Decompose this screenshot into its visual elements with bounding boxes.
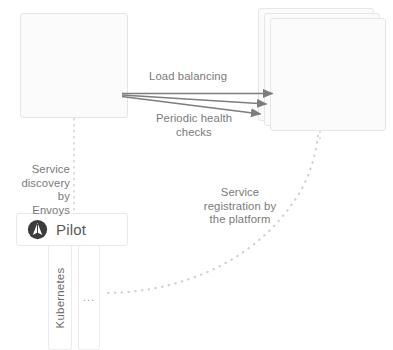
- node-pilot[interactable]: Pilot: [16, 213, 128, 246]
- annotation-service-registration: Service registration by the platform: [188, 186, 292, 227]
- periodic-health-checks-line-2: checks: [140, 126, 248, 140]
- service-registration-line-1: Service: [188, 186, 292, 200]
- pod-service-b-copy-1: [270, 18, 386, 131]
- service-discovery-line-1: Service: [8, 163, 70, 177]
- service-registration-line-3: the platform: [188, 213, 292, 227]
- annotation-periodic-health-checks: Periodic health checks: [140, 112, 248, 139]
- periodic-health-checks-line-1: Periodic health: [140, 112, 248, 126]
- service-discovery-line-3: Envoys: [8, 204, 70, 218]
- arrow-load-balancing-2: [122, 95, 267, 104]
- pilot-label: Pilot: [56, 221, 86, 238]
- service-registration-line-2: registration by: [188, 200, 292, 214]
- service-discovery-line-2: discovery by: [8, 177, 70, 204]
- annotation-service-discovery: Service discovery by Envoys: [8, 163, 70, 217]
- pod-service-a: [20, 13, 128, 118]
- annotation-load-balancing: Load balancing: [149, 70, 227, 84]
- pilot-icon: [27, 219, 48, 240]
- load-balancing-text: Load balancing: [149, 70, 227, 84]
- platform-bar-kubernetes: [48, 245, 72, 350]
- platform-bar-other: [78, 245, 100, 350]
- diagram-canvas: Service A Proxy Service B Proxy Load bal…: [0, 0, 393, 350]
